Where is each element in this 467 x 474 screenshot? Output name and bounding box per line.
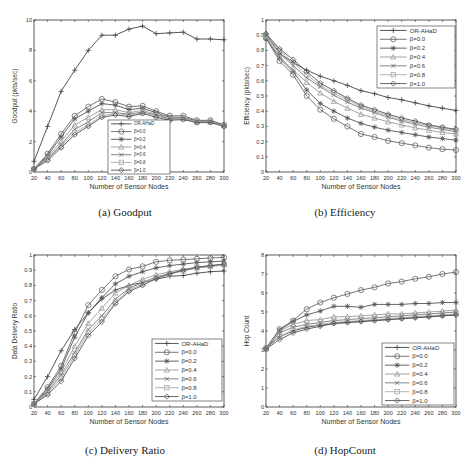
svg-text:β=0.0: β=0.0	[134, 129, 146, 134]
svg-text:120: 120	[329, 175, 338, 181]
svg-text:β=0.8: β=0.8	[181, 385, 197, 391]
svg-text:280: 280	[438, 175, 447, 181]
svg-text:240: 240	[411, 410, 420, 416]
svg-text:40: 40	[276, 410, 282, 416]
svg-text:60: 60	[58, 175, 64, 181]
svg-text:0.4: 0.4	[24, 343, 32, 349]
svg-text:220: 220	[165, 410, 174, 416]
svg-text:Number of Sensor Nodes: Number of Sensor Nodes	[322, 418, 401, 425]
legend: OR-AHaDβ=0.0β=0.2β=0.4β=0.6β=0.8β=1.0	[377, 26, 455, 88]
svg-text:Hop Count: Hop Count	[243, 315, 251, 346]
svg-text:0.8: 0.8	[256, 47, 264, 53]
svg-text:β=0.2: β=0.2	[410, 45, 426, 51]
svg-text:260: 260	[424, 175, 433, 181]
svg-text:Goodput (pkts/sec): Goodput (pkts/sec)	[11, 69, 19, 124]
svg-text:0.2: 0.2	[24, 374, 32, 380]
delivery-ratio-chart: 2040608010012014016018020022024026028030…	[0, 235, 235, 430]
svg-text:0.3: 0.3	[24, 358, 32, 364]
svg-text:180: 180	[138, 175, 147, 181]
svg-text:280: 280	[206, 175, 215, 181]
svg-text:60: 60	[58, 410, 64, 416]
svg-text:2: 2	[261, 366, 264, 372]
svg-text:160: 160	[124, 175, 133, 181]
svg-text:300: 300	[219, 410, 228, 416]
svg-text:0.7: 0.7	[24, 298, 32, 304]
svg-text:20: 20	[263, 175, 269, 181]
svg-text:40: 40	[44, 410, 50, 416]
hopcount-plot: 2040608010012014016018020022024026028030…	[232, 235, 467, 430]
svg-text:β=1.0: β=1.0	[181, 394, 197, 400]
svg-text:40: 40	[276, 175, 282, 181]
caption-efficiency: (b) Efficiency	[305, 206, 385, 218]
svg-text:Number of Sensor Nodes: Number of Sensor Nodes	[322, 183, 401, 190]
svg-text:β=0.4: β=0.4	[134, 145, 146, 150]
svg-text:20: 20	[31, 410, 37, 416]
svg-text:80: 80	[304, 410, 310, 416]
svg-text:6: 6	[261, 290, 264, 296]
svg-text:8: 8	[29, 47, 32, 53]
svg-text:240: 240	[411, 175, 420, 181]
svg-text:100: 100	[84, 175, 93, 181]
svg-text:20: 20	[263, 410, 269, 416]
svg-text:160: 160	[356, 410, 365, 416]
svg-text:120: 120	[97, 410, 106, 416]
efficiency-plot: 2040608010012014016018020022024026028030…	[232, 0, 467, 195]
svg-text:β=0.6: β=0.6	[410, 63, 426, 69]
svg-text:160: 160	[356, 175, 365, 181]
svg-text:120: 120	[97, 175, 106, 181]
svg-text:OR-AHaD: OR-AHaD	[412, 345, 440, 351]
svg-text:β=0.0: β=0.0	[412, 353, 428, 359]
svg-text:80: 80	[72, 175, 78, 181]
svg-text:200: 200	[383, 175, 392, 181]
svg-text:80: 80	[304, 175, 310, 181]
caption-hopcount: (d) HopCount	[305, 444, 385, 456]
svg-text:7: 7	[261, 271, 264, 277]
svg-text:220: 220	[397, 410, 406, 416]
svg-text:1: 1	[261, 17, 264, 23]
svg-text:260: 260	[424, 410, 433, 416]
svg-text:0: 0	[261, 404, 264, 410]
svg-text:β=0.6: β=0.6	[412, 380, 428, 386]
svg-text:β=0.4: β=0.4	[410, 54, 426, 60]
svg-text:8: 8	[261, 252, 264, 258]
svg-text:6: 6	[29, 78, 32, 84]
goodput-chart: 2040608010012014016018020022024026028030…	[0, 0, 235, 195]
caption-goodput: (a) Goodput	[90, 206, 160, 218]
efficiency-chart: 2040608010012014016018020022024026028030…	[232, 0, 467, 195]
svg-text:OR-AHaD: OR-AHaD	[134, 121, 155, 126]
svg-text:160: 160	[124, 410, 133, 416]
svg-text:100: 100	[316, 175, 325, 181]
svg-text:60: 60	[290, 175, 296, 181]
svg-text:0.4: 0.4	[256, 108, 264, 114]
svg-text:300: 300	[451, 175, 460, 181]
svg-text:0.1: 0.1	[24, 389, 32, 395]
svg-text:4: 4	[29, 108, 32, 114]
svg-text:40: 40	[44, 175, 50, 181]
svg-text:140: 140	[111, 410, 120, 416]
svg-text:140: 140	[343, 410, 352, 416]
svg-text:1: 1	[29, 252, 32, 258]
svg-text:120: 120	[329, 410, 338, 416]
svg-text:β=1.0: β=1.0	[412, 398, 428, 404]
svg-text:0.8: 0.8	[24, 282, 32, 288]
svg-text:β=1.0: β=1.0	[134, 168, 146, 173]
svg-text:200: 200	[151, 410, 160, 416]
svg-text:260: 260	[192, 175, 201, 181]
svg-text:0.9: 0.9	[256, 32, 264, 38]
svg-text:Efficiency (pkts/sec): Efficiency (pkts/sec)	[243, 67, 251, 125]
svg-text:4: 4	[261, 328, 264, 334]
svg-text:β=0.2: β=0.2	[181, 358, 197, 364]
svg-text:1: 1	[261, 385, 264, 391]
svg-text:180: 180	[138, 410, 147, 416]
delivery-ratio-plot: 2040608010012014016018020022024026028030…	[0, 235, 235, 430]
svg-text:0.3: 0.3	[256, 123, 264, 129]
svg-text:β=0.8: β=0.8	[410, 72, 426, 78]
svg-text:β=0.6: β=0.6	[134, 152, 146, 157]
svg-text:0.9: 0.9	[24, 267, 32, 273]
svg-text:100: 100	[84, 410, 93, 416]
legend: OR-AHaDβ=0.0β=0.2β=0.4β=0.6β=0.8β=1.0	[108, 120, 170, 174]
svg-text:220: 220	[397, 175, 406, 181]
svg-text:200: 200	[151, 175, 160, 181]
svg-text:0.6: 0.6	[256, 78, 264, 84]
svg-text:OR-AHaD: OR-AHaD	[410, 28, 438, 34]
